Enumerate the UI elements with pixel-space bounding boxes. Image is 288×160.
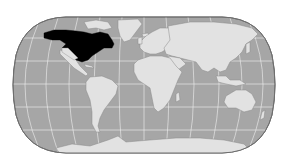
region-madagascar	[176, 92, 180, 102]
world-map: World map highlighting North America (Ca…	[0, 0, 288, 160]
map-canvas	[0, 0, 288, 160]
region-uk	[138, 37, 142, 44]
region-japan	[246, 42, 250, 54]
